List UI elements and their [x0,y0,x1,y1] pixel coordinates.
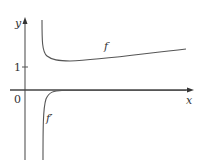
function-derivative-graph: y 1 x 0 f f′ [0,0,202,165]
x-axis-arrow-icon [187,88,194,93]
curve-f [42,20,186,61]
origin-label: 0 [14,93,21,106]
y-axis [23,17,28,160]
y-tick-label-1: 1 [14,61,21,74]
x-axis-label: x [186,94,193,107]
curve-f-label: f [103,40,110,53]
curve-f-prime [43,91,186,161]
y-axis-label: y [14,17,22,30]
curve-f-prime-label: f′ [45,112,53,125]
y-axis-arrow-icon [23,17,28,24]
